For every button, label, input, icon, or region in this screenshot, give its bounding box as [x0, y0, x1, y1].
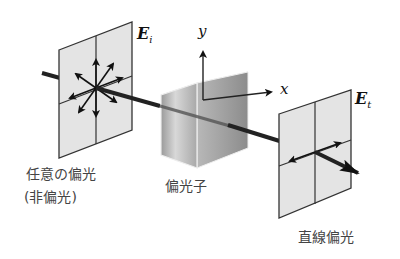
unpolarized-label: (非偏光)	[24, 186, 77, 206]
y-axis-label: y	[198, 22, 206, 40]
polarizer-cube	[160, 52, 271, 168]
polarizer-label: 偏光子	[165, 175, 207, 195]
incident-field-subscript: i	[149, 34, 152, 45]
linear-polarization-label: 直線偏光	[298, 226, 354, 246]
transmitted-field-label: Et	[355, 89, 371, 110]
incident-field-symbol: E	[137, 24, 149, 43]
transmitted-field-symbol: E	[355, 89, 367, 108]
transmitted-polarization-panel	[279, 90, 358, 218]
incident-field-label: Ei	[137, 24, 152, 45]
incident-light-label: 任意の偏光	[26, 163, 96, 183]
polarizer-diagram: Ei y x Et 任意の偏光 (非偏光) 偏光子 直線偏光	[0, 0, 400, 259]
transmitted-field-subscript: t	[367, 99, 371, 110]
x-axis-label: x	[280, 80, 288, 98]
